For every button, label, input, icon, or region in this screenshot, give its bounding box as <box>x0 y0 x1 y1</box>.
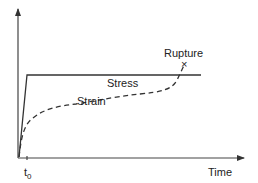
strain-label: Strain <box>77 95 106 107</box>
rupture-label: Rupture <box>164 47 203 59</box>
strain-curve <box>19 64 185 157</box>
t0-label: t0 <box>24 166 32 181</box>
creep-diagram: × Rupture Stress Strain t0 Time <box>0 0 258 183</box>
stress-label: Stress <box>107 77 139 89</box>
time-axis-label: Time <box>208 166 232 178</box>
t0-subscript: 0 <box>27 172 32 181</box>
rupture-marker: × <box>181 58 187 70</box>
